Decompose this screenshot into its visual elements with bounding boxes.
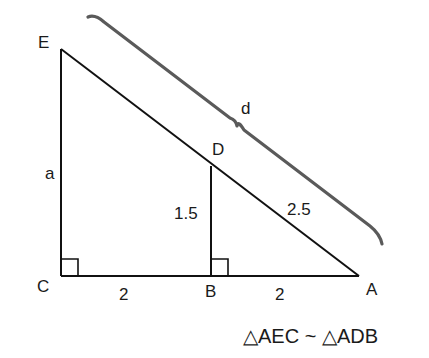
brace-d: [88, 16, 382, 244]
side-label-a: a: [45, 165, 54, 182]
vertex-label-B: B: [205, 283, 216, 300]
right-angle-marker-C: [61, 259, 78, 276]
vertex-label-D: D: [212, 141, 224, 158]
side-label-DA: 2.5: [287, 201, 311, 218]
vertex-label-E: E: [38, 34, 49, 51]
vertex-label-A: A: [366, 281, 377, 298]
side-label-CB: 2: [119, 286, 128, 303]
similarity-caption: △AEC ~ △ADB: [243, 326, 378, 346]
side-label-BA: 2: [275, 286, 284, 303]
vertex-label-C: C: [37, 278, 49, 295]
brace-label-d: d: [241, 100, 250, 117]
side-label-DB: 1.5: [174, 205, 198, 222]
right-angle-marker-B: [211, 259, 228, 276]
diagram-canvas: [0, 0, 429, 358]
similar-triangles-diagram: E C B A D a 2 2 1.5 2.5 d △AEC ~ △ADB: [0, 0, 429, 358]
